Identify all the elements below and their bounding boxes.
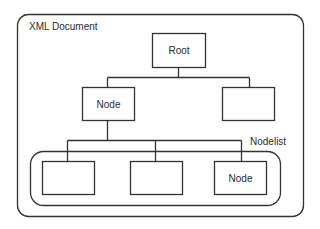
nodelist-item-2-label [130,161,183,195]
nodelist-item-1-label [42,161,95,195]
right-child-label [222,87,275,121]
root-label: Root [152,33,206,68]
node-label: Node [82,87,135,121]
nodelist-item-3-label: Node [214,161,267,195]
nodelist-label: Nodelist [250,136,286,147]
xml-document-label: XML Document [29,21,98,32]
